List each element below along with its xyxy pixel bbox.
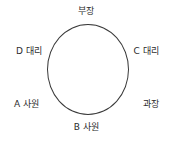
seat-label-right-upper: C 대리 [133,46,159,57]
round-table-diagram: 부장 C 대리 과장 B 사원 A 사원 D 대리 [0,0,173,145]
seat-label-left-upper: D 대리 [16,46,42,57]
round-table-circle [47,24,129,115]
seat-label-right-lower: 과장 [143,99,159,110]
seat-label-left-lower: A 사원 [14,99,39,110]
seat-label-bottom: B 사원 [0,122,173,133]
seat-label-top: 부장 [0,6,173,17]
